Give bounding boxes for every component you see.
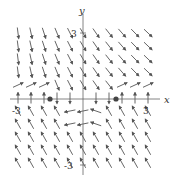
field-arrow <box>41 106 46 116</box>
field-arrow <box>55 80 59 90</box>
field-arrow <box>68 67 73 77</box>
field-arrow <box>93 68 99 77</box>
field-arrow <box>30 41 32 52</box>
x-tick-label-3: 3 <box>143 106 149 116</box>
field-arrow <box>131 68 139 76</box>
field-arrow <box>119 106 124 116</box>
field-arrow <box>145 119 150 129</box>
field-arrow <box>39 83 49 88</box>
field-arrow <box>145 132 150 142</box>
field-arrow <box>28 158 33 168</box>
field-arrow <box>68 80 73 90</box>
x-axis-label: x <box>164 94 170 105</box>
field-arrow <box>41 145 46 155</box>
y-tick-label-3: 3 <box>71 29 77 39</box>
field-arrow <box>106 68 113 77</box>
field-arrow <box>131 42 139 50</box>
field-arrow <box>15 158 20 168</box>
field-arrow <box>119 132 124 142</box>
y-axis-label: y <box>78 5 85 16</box>
field-arrow <box>17 41 18 52</box>
field-arrow <box>54 119 59 129</box>
field-arrow <box>145 158 150 168</box>
field-arrow <box>28 145 33 155</box>
field-arrow <box>106 119 111 129</box>
field-arrow <box>119 145 124 155</box>
field-arrow <box>68 54 73 64</box>
field-arrow <box>68 41 73 51</box>
field-arrow <box>28 132 33 142</box>
field-arrow <box>15 145 20 155</box>
field-arrow <box>117 83 127 88</box>
field-arrow <box>26 83 36 88</box>
field-arrow <box>42 67 45 77</box>
field-arrow <box>93 132 98 142</box>
field-arrow <box>131 29 139 37</box>
field-arrow <box>132 132 137 142</box>
field-arrow <box>132 158 137 168</box>
field-arrow <box>42 41 45 51</box>
field-arrow <box>144 42 152 50</box>
field-arrow <box>106 81 113 90</box>
field-arrow <box>17 54 18 65</box>
field-arrow <box>93 81 99 90</box>
field-arrow <box>65 110 76 112</box>
field-arrow <box>55 41 59 51</box>
field-arrow <box>13 83 23 88</box>
field-arrow <box>118 29 125 37</box>
field-arrow <box>41 132 46 142</box>
field-arrow <box>144 55 152 63</box>
field-arrow <box>55 28 59 38</box>
field-arrow <box>55 54 59 64</box>
field-arrow <box>41 119 46 129</box>
field-arrow <box>30 54 32 65</box>
field-arrow <box>118 68 125 76</box>
field-arrow <box>119 119 124 129</box>
field-arrow <box>54 106 59 116</box>
field-arrow <box>15 132 20 142</box>
field-arrow <box>54 158 59 168</box>
field-arrow <box>67 145 72 155</box>
field-arrow <box>132 106 137 116</box>
field-arrow <box>93 55 99 64</box>
field-arrow <box>93 145 98 155</box>
field-arrow <box>65 123 76 125</box>
vector-field-plot: x y -3 3 3 -3 <box>0 0 180 181</box>
equilibrium-point-left <box>47 96 52 101</box>
field-arrow <box>54 132 59 142</box>
field-arrow <box>144 29 152 37</box>
field-arrow <box>91 109 101 113</box>
field-arrow <box>93 29 99 38</box>
field-arrow <box>143 83 153 88</box>
field-arrow <box>145 145 150 155</box>
field-arrow <box>17 28 18 39</box>
field-arrow <box>28 119 33 129</box>
field-arrow <box>106 132 111 142</box>
field-arrow <box>118 42 125 50</box>
field-arrow <box>93 158 98 168</box>
field-arrow <box>132 145 137 155</box>
field-arrow <box>119 158 124 168</box>
field-arrow <box>67 132 72 142</box>
y-tick-label-neg3: -3 <box>64 161 73 171</box>
field-arrow <box>93 42 99 51</box>
field-arrow <box>130 83 140 88</box>
field-arrow <box>41 158 46 168</box>
field-arrow <box>55 67 59 77</box>
equilibrium-point-right <box>113 96 118 101</box>
field-arrow <box>42 54 45 64</box>
field-arrow <box>106 158 111 168</box>
field-arrow <box>42 28 45 38</box>
field-arrow <box>131 55 139 63</box>
field-arrow <box>106 145 111 155</box>
field-arrow <box>17 67 18 78</box>
field-arrow <box>106 106 111 116</box>
field-arrow <box>106 29 113 38</box>
field-arrow <box>106 42 113 51</box>
field-arrow <box>106 55 113 64</box>
field-arrow <box>54 145 59 155</box>
field-arrow <box>132 119 137 129</box>
field-arrow <box>28 106 33 116</box>
field-arrow <box>144 68 152 76</box>
field-arrow <box>118 55 125 63</box>
